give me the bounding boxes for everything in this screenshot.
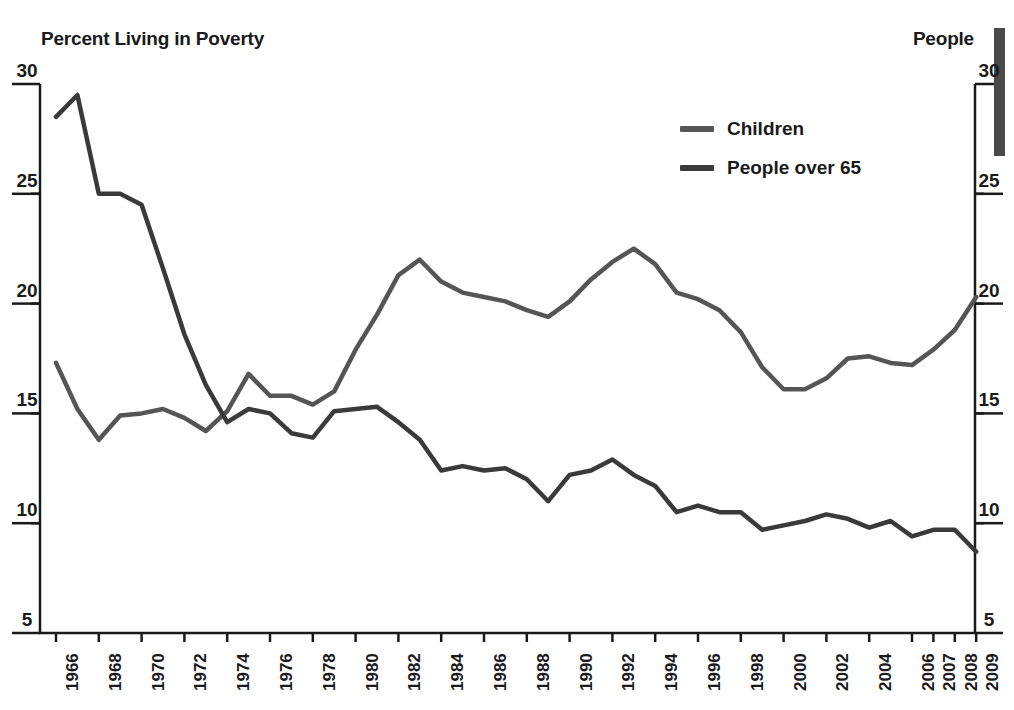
series-line-children xyxy=(56,249,976,440)
x-axis-tick-label: 2008 xyxy=(962,653,982,691)
x-axis-tick-label: 2002 xyxy=(833,653,853,691)
y-axis-tick-label-left: 15 xyxy=(14,389,40,411)
x-axis-tick-label: 2000 xyxy=(791,653,811,691)
x-axis-tick-label: 1996 xyxy=(705,653,725,691)
x-axis-tick-label: 2006 xyxy=(919,653,939,691)
y-axis-tick-label-right: 20 xyxy=(975,280,1003,302)
x-axis-tick-label: 1986 xyxy=(491,653,511,691)
x-axis-tick-label: 1982 xyxy=(405,653,425,691)
right-axis-title: People xyxy=(913,28,974,50)
y-axis-tick-label-left: 30 xyxy=(14,60,40,82)
legend-swatch-people-over-65 xyxy=(680,165,714,171)
decorative-bar xyxy=(994,28,1005,156)
x-axis-tick-label: 1972 xyxy=(191,653,211,691)
x-axis-tick-label: 1984 xyxy=(448,653,468,691)
y-axis-tick-label-right: 10 xyxy=(975,499,1003,521)
y-axis-tick-label-left: 5 xyxy=(14,609,40,631)
x-axis-tick-label: 1994 xyxy=(662,653,682,691)
x-axis-tick-label: 1978 xyxy=(320,653,340,691)
y-axis-tick-label-right: 15 xyxy=(975,389,1003,411)
left-axis-title: Percent Living in Poverty xyxy=(41,28,264,50)
x-axis-tick-label: 1992 xyxy=(619,653,639,691)
x-axis-tick-label: 1990 xyxy=(577,653,597,691)
legend-label-children: Children xyxy=(727,118,804,140)
legend-label-people-over-65: People over 65 xyxy=(727,157,861,179)
x-axis-tick-label: 2004 xyxy=(876,653,896,691)
x-axis-tick-label: 1974 xyxy=(234,653,254,691)
y-axis-tick-label-right: 5 xyxy=(975,609,1003,631)
y-axis-tick-label-right: 25 xyxy=(975,170,1003,192)
legend-swatch-children xyxy=(680,126,714,132)
x-axis-tick-label: 1968 xyxy=(106,653,126,691)
x-axis-tick-label: 1976 xyxy=(277,653,297,691)
x-axis-tick-label: 2009 xyxy=(983,653,1003,691)
y-axis-tick-label-left: 20 xyxy=(14,280,40,302)
y-axis-tick-label-right: 30 xyxy=(975,60,1003,82)
x-axis-tick-label: 1998 xyxy=(748,653,768,691)
x-axis-tick-label: 1966 xyxy=(63,653,83,691)
x-axis-tick-label: 1988 xyxy=(534,653,554,691)
x-axis-tick-label: 1970 xyxy=(149,653,169,691)
plot-area xyxy=(0,0,1014,710)
y-axis-tick-label-left: 25 xyxy=(14,170,40,192)
x-axis-tick-label: 2007 xyxy=(940,653,960,691)
x-axis-tick-label: 1980 xyxy=(363,653,383,691)
poverty-line-chart: Percent Living in Poverty People 3025201… xyxy=(0,0,1014,710)
y-axis-tick-label-left: 10 xyxy=(14,499,40,521)
